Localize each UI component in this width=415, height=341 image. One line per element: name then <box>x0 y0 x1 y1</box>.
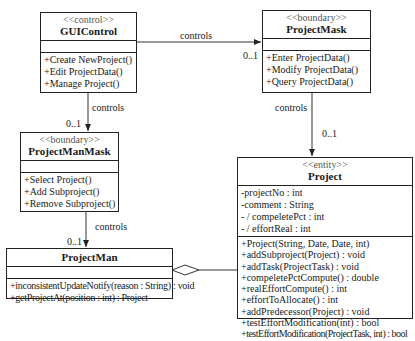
operations-section: +Create NewProject() +Edit ProjectData()… <box>41 53 136 91</box>
class-project[interactable]: <<entity>> Project -projectNo : int -com… <box>237 157 413 319</box>
class-name: ProjectMan <box>9 251 170 264</box>
attributes-section <box>21 161 118 173</box>
attribute: - / effortReal : int <box>241 223 409 235</box>
assoc-label-gui-manmask: controls <box>92 102 124 113</box>
class-gui-control[interactable]: <<control>> GUIControl +Create NewProjec… <box>40 12 137 93</box>
operation: +Project(String, Date, Date, int) <box>241 238 409 249</box>
stereotype: <<entity>> <box>240 159 410 170</box>
operation: +compeletePctCompute() : double <box>241 272 409 283</box>
operations-section: +Select Project() +Add Subproject() +Rem… <box>21 173 118 211</box>
stereotype: <<boundary>> <box>23 134 116 145</box>
class-header: <<entity>> Project <box>238 158 412 186</box>
class-header: <<boundary>> ProjectManMask <box>21 133 118 161</box>
multiplicity-manmask-man: 0..1 <box>67 236 82 247</box>
operation: +testEffortModification(ProjectTask, int… <box>241 328 409 339</box>
class-header: <<control>> GUIControl <box>41 13 136 41</box>
stereotype: <<control>> <box>43 14 134 25</box>
operation: +inconsistentUpdateNotify(reason : Strin… <box>10 280 169 292</box>
class-project-mask[interactable]: <<boundary>> ProjectMask +Enter ProjectD… <box>262 10 371 93</box>
class-name: Project <box>240 170 410 183</box>
attribute: -projectNo : int <box>241 187 409 199</box>
assoc-label-gui-mask: controls <box>180 30 212 41</box>
attributes-section: -projectNo : int -comment : String - / c… <box>238 186 412 237</box>
stereotype: <<boundary>> <box>265 12 368 23</box>
attribute: -comment : String <box>241 199 409 211</box>
class-name: ProjectManMask <box>23 145 116 158</box>
multiplicity-gui-mask: 0..1 <box>243 50 258 61</box>
class-project-man-mask[interactable]: <<boundary>> ProjectManMask +Select Proj… <box>20 132 119 212</box>
class-name: ProjectMask <box>265 23 368 36</box>
assoc-label-mask-project: controls <box>275 102 307 113</box>
operations-section: +inconsistentUpdateNotify(reason : Strin… <box>7 279 172 305</box>
operation: +Add Subproject() <box>24 186 115 198</box>
attribute: - / compeletePct : int <box>241 211 409 223</box>
operation: +effortToAllocate() : int <box>241 294 409 305</box>
operation: +Manage Project() <box>44 78 133 90</box>
assoc-label-manmask-man: controls <box>95 221 127 232</box>
operation: +addTask(ProjectTask) : void <box>241 261 409 272</box>
aggregation-diamond-icon <box>172 265 199 275</box>
operation: +realEffortCompute() : int <box>241 283 409 294</box>
class-name: GUIControl <box>43 25 134 38</box>
operation: +Select Project() <box>24 174 115 186</box>
operation: +Enter ProjectData() <box>266 52 367 64</box>
operation: +addPredecessor(Project) : void <box>241 306 409 317</box>
operation: +Query ProjectData() <box>266 76 367 88</box>
operation: +Modify ProjectData() <box>266 64 367 76</box>
attributes-section <box>7 267 172 279</box>
class-header: ProjectMan <box>7 249 172 267</box>
operations-section: +Project(String, Date, Date, int) +addSu… <box>238 237 412 341</box>
operation: +Create NewProject() <box>44 54 133 66</box>
class-header: <<boundary>> ProjectMask <box>263 11 370 39</box>
attributes-section <box>41 41 136 53</box>
multiplicity-gui-manmask: 0..1 <box>66 118 81 129</box>
operation: +Remove Subproject() <box>24 198 115 210</box>
operation: +Edit ProjectData() <box>44 66 133 78</box>
operation: +addSubproject(Project) : void <box>241 249 409 260</box>
multiplicity-mask-project: 0..1 <box>322 128 337 139</box>
attributes-section <box>263 39 370 51</box>
operations-section: +Enter ProjectData() +Modify ProjectData… <box>263 51 370 89</box>
class-project-man[interactable]: ProjectMan +inconsistentUpdateNotify(rea… <box>6 248 173 299</box>
operation: +getProjectAt(position : int) : Project <box>10 292 169 304</box>
operation: +testEffortModification(int) : bool <box>241 317 409 328</box>
